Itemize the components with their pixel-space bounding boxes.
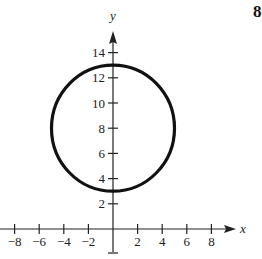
circle-graph: −8−6−4−22468 2468101214 x y — [0, 0, 262, 259]
x-tick-labels: −8−6−4−22468 — [8, 234, 215, 249]
x-axis-label: x — [239, 221, 246, 236]
y-tick-label: 12 — [92, 70, 105, 85]
y-tick-label: 8 — [99, 121, 106, 136]
x-tick-label: 4 — [159, 234, 166, 249]
x-tick-label: −8 — [8, 234, 22, 249]
y-tick-label: 2 — [99, 196, 106, 211]
y-axis-label: y — [108, 8, 116, 23]
y-tick-label: 14 — [92, 45, 106, 60]
y-tick-label: 4 — [99, 171, 106, 186]
axes — [0, 40, 230, 252]
y-tick-label: 6 — [99, 146, 106, 161]
x-tick-label: −2 — [81, 234, 95, 249]
x-tick-label: −4 — [57, 234, 71, 249]
x-tick-label: 8 — [208, 234, 215, 249]
x-tick-label: −6 — [32, 234, 46, 249]
problem-number-fragment: 8 — [253, 2, 262, 22]
y-tick-labels: 2468101214 — [92, 45, 106, 211]
x-tick-label: 6 — [184, 234, 191, 249]
y-tick-label: 10 — [92, 96, 105, 111]
x-tick-label: 2 — [134, 234, 141, 249]
